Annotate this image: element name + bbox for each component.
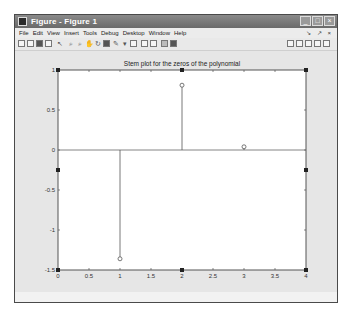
- y-tick-label: 0.5: [47, 107, 56, 113]
- resize-handle[interactable]: [180, 68, 184, 72]
- stem-plot-axes[interactable]: Stem plot for the zeros of the polynomia…: [0, 0, 352, 324]
- x-tick-label: 2.5: [209, 273, 218, 279]
- x-tick-label: 4: [304, 273, 308, 279]
- y-tick-label: -0.5: [45, 187, 56, 193]
- resize-handle[interactable]: [304, 68, 308, 72]
- resize-handle[interactable]: [304, 168, 308, 172]
- x-tick-label: 1: [118, 273, 122, 279]
- plot-title: Stem plot for the zeros of the polynomia…: [124, 60, 241, 68]
- resize-handle[interactable]: [180, 268, 184, 272]
- y-tick-label: 0: [52, 147, 56, 153]
- stem-marker: [242, 145, 246, 149]
- stem-marker: [180, 83, 184, 87]
- x-tick-label: 3: [242, 273, 246, 279]
- resize-handle[interactable]: [56, 68, 60, 72]
- y-tick-label: -1: [50, 227, 56, 233]
- resize-handle[interactable]: [56, 168, 60, 172]
- x-tick-label: 0: [56, 273, 60, 279]
- x-tick-label: 1.5: [147, 273, 156, 279]
- x-tick-label: 0.5: [85, 273, 94, 279]
- stem-marker: [118, 257, 122, 261]
- y-tick-label: 1: [52, 67, 56, 73]
- x-tick-label: 2: [180, 273, 184, 279]
- resize-handle[interactable]: [304, 268, 308, 272]
- x-tick-label: 3.5: [271, 273, 280, 279]
- resize-handle[interactable]: [56, 268, 60, 272]
- y-tick-label: -1.5: [45, 267, 56, 273]
